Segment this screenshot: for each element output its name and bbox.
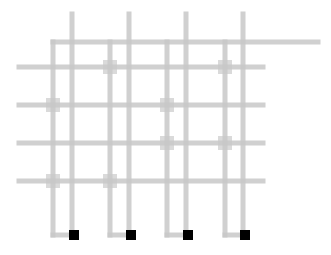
terminal-square xyxy=(240,230,250,240)
terminal-square xyxy=(183,230,193,240)
grid-lines xyxy=(19,14,318,235)
terminal-square xyxy=(69,230,79,240)
terminal-square xyxy=(126,230,136,240)
grid-circuit-diagram xyxy=(0,0,331,255)
